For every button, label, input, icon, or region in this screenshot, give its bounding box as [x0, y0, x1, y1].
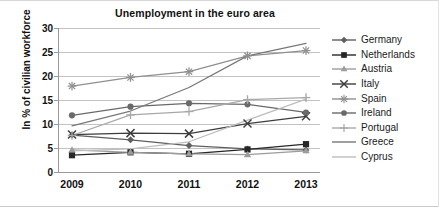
legend-swatch-triangle-icon [331, 63, 357, 75]
x-axis-tick-label: 2011 [178, 178, 201, 190]
chart-screenshot: Unemployment in the euro area In % of ci… [0, 0, 439, 207]
data-point-marker-circle [341, 110, 347, 116]
legend-label: Italy [361, 79, 379, 89]
legend-label: Greece [361, 137, 394, 147]
data-point-marker-plus [243, 95, 252, 104]
legend-swatch-diamond-icon [331, 34, 357, 46]
legend-label: Germany [361, 35, 402, 45]
x-axis-tick-label: 2010 [119, 178, 142, 190]
chart-title: Unemployment in the euro area [70, 7, 320, 19]
legend-label: Spain [361, 94, 387, 104]
legend-item-austria[interactable]: Austria [331, 62, 437, 77]
data-point-marker-square [303, 141, 309, 147]
legend-item-cyprus[interactable]: Cyprus [331, 150, 437, 165]
legend-swatch-x-icon [331, 78, 357, 90]
legend-item-ireland[interactable]: Ireland [331, 106, 437, 121]
y-axis-label: In % of civilian workforce [21, 0, 32, 145]
legend-label: Ireland [361, 108, 392, 118]
data-point-marker-asterisk [243, 51, 252, 60]
data-point-marker-diamond [341, 37, 348, 44]
legend-label: Netherlands [361, 50, 415, 60]
data-point-marker-plus [340, 124, 348, 132]
legend-label: Austria [361, 64, 392, 74]
data-point-marker-circle [303, 109, 309, 115]
legend-swatch-asterisk-icon [331, 93, 357, 105]
data-point-marker-circle [127, 104, 133, 110]
y-axis-tick-label: 10 [42, 119, 53, 130]
y-axis-tick-label: 30 [42, 23, 53, 34]
legend-item-italy[interactable]: Italy [331, 77, 437, 92]
y-axis-tick-label: 20 [42, 71, 53, 82]
data-point-marker-square [69, 152, 75, 158]
y-axis-tick-label: 0 [47, 167, 53, 178]
legend-swatch-square-icon [331, 49, 357, 61]
x-axis-tick-label: 2013 [294, 178, 317, 190]
series-line-italy [72, 116, 306, 134]
data-point-marker-plus [185, 107, 194, 116]
data-point-marker-square [341, 52, 347, 58]
series-lines [58, 28, 320, 173]
data-point-marker-asterisk [68, 82, 77, 91]
y-axis-tick-label: 15 [42, 95, 53, 106]
legend-item-greece[interactable]: Greece [331, 135, 437, 150]
data-point-marker-triangle [68, 146, 75, 152]
x-axis-tick-label: 2009 [60, 178, 83, 190]
legend-swatch-plus-icon [331, 122, 357, 134]
legend: GermanyNetherlandsAustriaItalySpainIrela… [331, 33, 437, 164]
legend-swatch-line-icon [331, 151, 357, 163]
data-point-marker-asterisk [302, 46, 311, 55]
legend-item-spain[interactable]: Spain [331, 91, 437, 106]
legend-item-portugal[interactable]: Portugal [331, 121, 437, 136]
legend-item-germany[interactable]: Germany [331, 33, 437, 48]
legend-label: Cyprus [361, 152, 393, 162]
data-point-marker-diamond [127, 136, 134, 143]
y-axis-tick-label: 5 [47, 143, 53, 154]
legend-label: Portugal [361, 123, 398, 133]
plot-area: 051015202530 20092010201120122013 [58, 28, 320, 172]
data-point-marker-asterisk [126, 73, 135, 82]
data-point-marker-diamond [186, 142, 193, 149]
x-axis-tick-label: 2012 [236, 178, 259, 190]
legend-swatch-line-icon [331, 136, 357, 148]
data-point-marker-circle [186, 100, 192, 106]
data-point-marker-asterisk [185, 67, 194, 76]
legend-swatch-circle-icon [331, 107, 357, 119]
data-point-marker-asterisk [340, 95, 348, 103]
data-point-marker-circle [69, 112, 75, 118]
y-axis-tick-label: 25 [42, 47, 53, 58]
legend-item-netherlands[interactable]: Netherlands [331, 48, 437, 63]
